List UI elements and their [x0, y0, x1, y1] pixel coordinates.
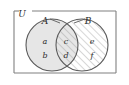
- venn-diagram-canvas: U A B a b c d e f: [0, 0, 129, 85]
- venn-diagram-figure: U A B a b c d e f: [0, 0, 129, 85]
- element-d: d: [63, 51, 68, 60]
- element-c: c: [64, 37, 69, 46]
- element-e: e: [90, 37, 95, 46]
- element-b: b: [42, 51, 47, 60]
- universe-label: U: [18, 9, 26, 19]
- element-a: a: [43, 37, 48, 46]
- set-b-label: B: [84, 16, 92, 26]
- set-a-label: A: [41, 16, 49, 26]
